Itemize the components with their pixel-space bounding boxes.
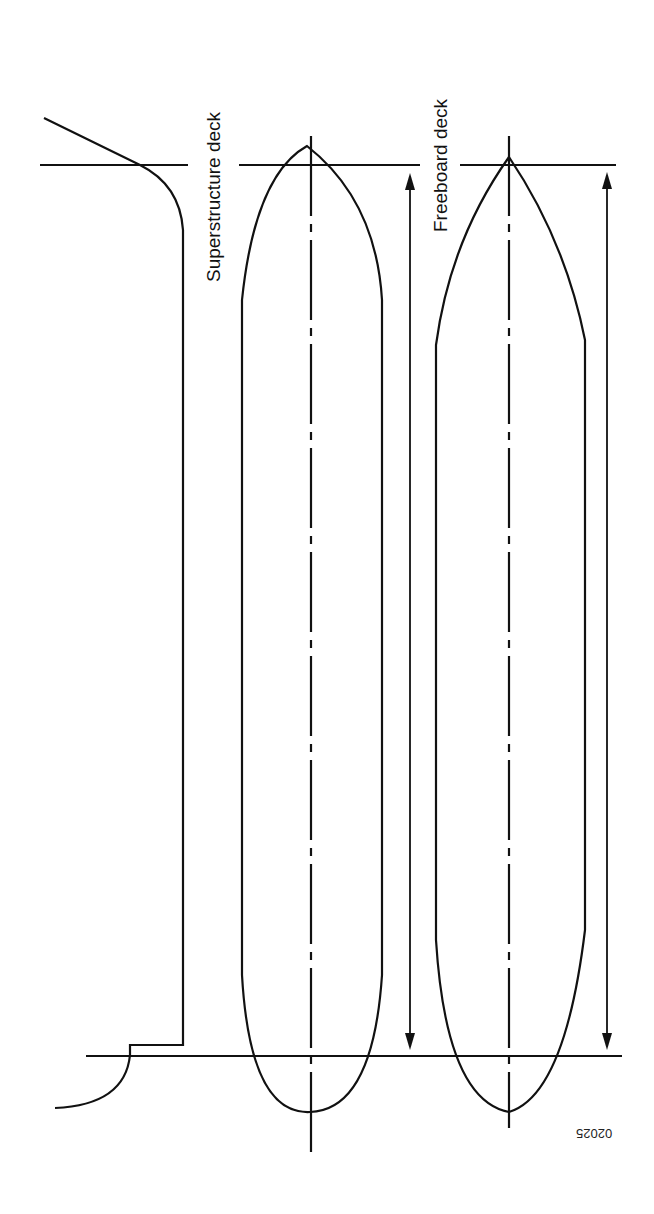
ship-profile [44,118,183,1108]
superstructure-arrow-head-top [405,173,415,190]
freeboard-deck-outline [436,157,585,1112]
reference-lines [40,165,622,1056]
figure-code: 02025 [576,1126,612,1141]
freeboard-arrow-head-bottom [602,1033,612,1050]
superstructure-deck-label: Superstructure deck [203,112,225,282]
deck-diagram [0,0,654,1214]
freeboard-arrow-head-top [602,172,612,189]
freeboard-deck-plan [436,136,612,1128]
bow-stem-line [44,118,183,1108]
superstructure-deck-plan [242,136,415,1152]
superstructure-arrow-head-bottom [405,1033,415,1050]
freeboard-deck-label: Freeboard deck [430,99,452,232]
